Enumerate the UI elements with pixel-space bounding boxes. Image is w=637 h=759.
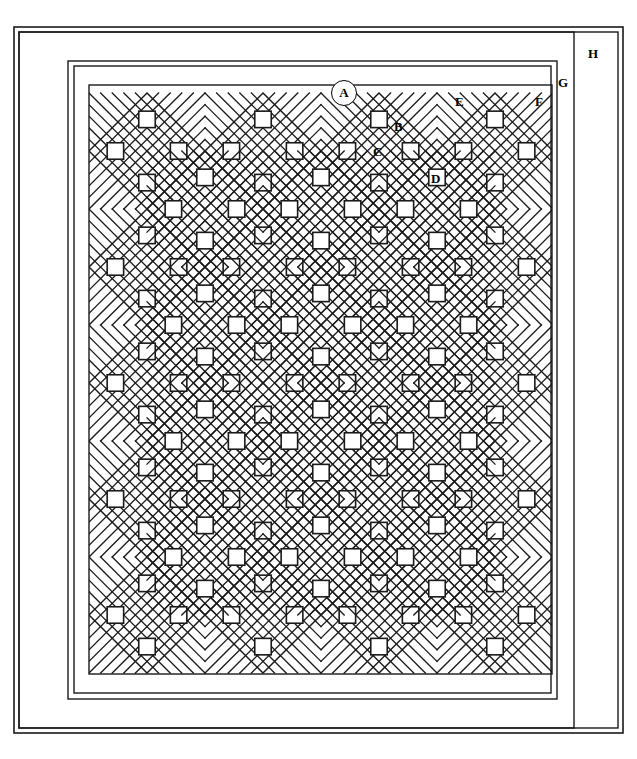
block-square-west [455, 491, 471, 507]
block-square-east [344, 317, 360, 333]
quilt-diagram [0, 0, 637, 759]
block-square-east [402, 143, 418, 159]
block-square-east [402, 259, 418, 275]
block-square-south [487, 638, 503, 654]
block-square-south [487, 406, 503, 422]
block-square-east [402, 491, 418, 507]
block-square-west [455, 143, 471, 159]
block-square-south [429, 464, 445, 480]
block-square-west [397, 317, 413, 333]
block-square-north [139, 227, 155, 243]
block-square-east [344, 201, 360, 217]
block-square-west [339, 259, 355, 275]
block-square-east [228, 201, 244, 217]
quilt-block [147, 151, 263, 267]
block-square-west [455, 607, 471, 623]
block-square-north [487, 459, 503, 475]
block-square-east [286, 143, 302, 159]
block-square-west [339, 607, 355, 623]
block-square-south [429, 580, 445, 596]
block-square-west [107, 259, 123, 275]
block-square-east [286, 491, 302, 507]
block-square-south [371, 522, 387, 538]
block-square-south [139, 406, 155, 422]
quilt-block [263, 267, 379, 383]
label-h: H [588, 47, 598, 60]
block-square-east [170, 607, 186, 623]
block-square-north [371, 227, 387, 243]
block-square-north [313, 517, 329, 533]
quilt-block [379, 383, 495, 499]
block-square-east [460, 317, 476, 333]
block-square-west [223, 491, 239, 507]
quilt-block [147, 499, 263, 615]
block-square-north [197, 169, 213, 185]
block-square-west [107, 143, 123, 159]
block-square-north [255, 459, 271, 475]
block-square-west [107, 607, 123, 623]
block-square-west [107, 491, 123, 507]
label-e: E [455, 95, 464, 108]
block-square-east [228, 433, 244, 449]
block-square-east [344, 433, 360, 449]
block-square-east [460, 549, 476, 565]
block-square-north [313, 169, 329, 185]
block-square-north [197, 285, 213, 301]
block-square-south [371, 290, 387, 306]
block-square-west [107, 375, 123, 391]
block-square-south [313, 348, 329, 364]
block-square-north [371, 459, 387, 475]
block-square-north [255, 111, 271, 127]
block-square-west [223, 259, 239, 275]
quilt-block [379, 151, 495, 267]
block-square-south [197, 348, 213, 364]
block-square-east [518, 259, 534, 275]
block-square-north [139, 343, 155, 359]
block-square-west [339, 375, 355, 391]
block-square-north [139, 111, 155, 127]
block-square-south [313, 232, 329, 248]
block-square-south [255, 174, 271, 190]
block-square-south [255, 406, 271, 422]
block-square-south [255, 638, 271, 654]
block-square-east [518, 607, 534, 623]
block-square-south [371, 406, 387, 422]
block-square-north [429, 517, 445, 533]
block-square-south [371, 174, 387, 190]
label-c: C [373, 145, 382, 158]
block-square-south [139, 638, 155, 654]
block-square-south [197, 580, 213, 596]
block-square-east [518, 491, 534, 507]
block-square-east [170, 491, 186, 507]
quilt-block [263, 151, 379, 267]
block-square-north [429, 401, 445, 417]
block-square-south [371, 638, 387, 654]
block-square-east [170, 143, 186, 159]
block-square-west [339, 143, 355, 159]
quilt-block [263, 383, 379, 499]
block-square-north [313, 285, 329, 301]
block-square-north [429, 285, 445, 301]
block-square-west [165, 201, 181, 217]
block-square-west [165, 549, 181, 565]
block-square-west [165, 433, 181, 449]
block-square-north [255, 575, 271, 591]
block-square-north [255, 227, 271, 243]
block-square-east [344, 549, 360, 565]
block-square-north [197, 517, 213, 533]
label-b: B [394, 120, 403, 133]
label-d: D [431, 172, 440, 185]
block-square-north [255, 343, 271, 359]
block-square-east [402, 607, 418, 623]
block-square-east [460, 201, 476, 217]
label-a-circled: A [331, 80, 357, 106]
block-square-south [255, 522, 271, 538]
block-square-east [286, 259, 302, 275]
block-square-south [139, 290, 155, 306]
block-square-north [197, 401, 213, 417]
label-f: F [535, 95, 543, 108]
block-square-north [487, 111, 503, 127]
block-square-south [255, 290, 271, 306]
block-square-west [281, 317, 297, 333]
block-square-east [170, 259, 186, 275]
